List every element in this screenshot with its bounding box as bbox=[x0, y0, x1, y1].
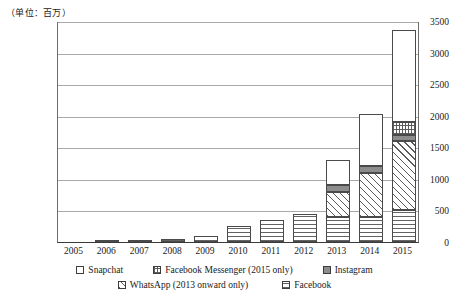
bar-segment-facebook[interactable] bbox=[260, 220, 284, 242]
x-tick-label: 2006 bbox=[97, 246, 116, 256]
y-tick-label: 1500 bbox=[397, 143, 449, 153]
bar-segment-instagram[interactable] bbox=[359, 166, 383, 172]
legend-label: Facebook Messenger (2015 only) bbox=[165, 265, 292, 275]
bar-2013[interactable] bbox=[326, 160, 350, 242]
legend: SnapchatFacebook Messenger (2015 only)In… bbox=[0, 262, 449, 292]
bar-segment-whatsapp[interactable] bbox=[359, 173, 383, 217]
bar-segment-facebook[interactable] bbox=[161, 239, 185, 242]
x-tick-label: 2013 bbox=[327, 246, 346, 256]
bar-segment-messenger[interactable] bbox=[392, 122, 416, 135]
bar-2008[interactable] bbox=[161, 239, 185, 242]
legend-item-facebook[interactable]: Facebook bbox=[282, 280, 331, 290]
legend-row-1: SnapchatFacebook Messenger (2015 only)In… bbox=[0, 262, 449, 277]
legend-label: Instagram bbox=[335, 265, 373, 275]
gridline bbox=[58, 54, 418, 55]
bar-2012[interactable] bbox=[293, 214, 317, 242]
x-tick-label: 2008 bbox=[163, 246, 182, 256]
gridline bbox=[58, 22, 418, 23]
bar-segment-instagram[interactable] bbox=[326, 185, 350, 191]
legend-label: Facebook bbox=[294, 280, 331, 290]
x-tick-label: 2009 bbox=[196, 246, 215, 256]
bar-2009[interactable] bbox=[194, 236, 218, 242]
legend-swatch-snapchat-icon bbox=[76, 266, 84, 274]
bar-segment-instagram[interactable] bbox=[392, 135, 416, 141]
x-tick-label: 2010 bbox=[229, 246, 248, 256]
bar-2014[interactable] bbox=[359, 114, 383, 242]
x-tick-label: 2015 bbox=[393, 246, 412, 256]
unit-label: （单位：百万） bbox=[6, 6, 71, 19]
gridline bbox=[58, 85, 418, 86]
bar-2010[interactable] bbox=[227, 226, 251, 242]
bar-segment-facebook[interactable] bbox=[293, 214, 317, 242]
y-tick-label: 2000 bbox=[397, 112, 449, 122]
legend-item-whatsapp[interactable]: WhatsApp (2013 onward only) bbox=[118, 280, 248, 290]
bar-2011[interactable] bbox=[260, 220, 284, 242]
legend-swatch-messenger-icon bbox=[153, 266, 161, 274]
bar-segment-facebook[interactable] bbox=[194, 236, 218, 242]
x-tick-label: 2014 bbox=[360, 246, 379, 256]
bar-segment-facebook[interactable] bbox=[326, 217, 350, 242]
legend-swatch-whatsapp-icon bbox=[118, 281, 126, 289]
bar-2007[interactable] bbox=[128, 241, 152, 242]
y-tick-label: 500 bbox=[397, 206, 449, 216]
bar-segment-facebook[interactable] bbox=[359, 217, 383, 242]
legend-item-instagram[interactable]: Instagram bbox=[323, 265, 373, 275]
y-tick-label: 3500 bbox=[397, 17, 449, 27]
legend-label: Snapchat bbox=[88, 265, 123, 275]
bar-segment-snapchat[interactable] bbox=[392, 30, 416, 122]
bar-segment-facebook[interactable] bbox=[227, 226, 251, 242]
bar-segment-snapchat[interactable] bbox=[359, 114, 383, 166]
x-tick-label: 2012 bbox=[294, 246, 313, 256]
bar-segment-facebook[interactable] bbox=[95, 240, 119, 242]
plot-area bbox=[57, 22, 419, 243]
legend-label: WhatsApp (2013 onward only) bbox=[130, 280, 248, 290]
y-tick-label: 3000 bbox=[397, 49, 449, 59]
bar-segment-snapchat[interactable] bbox=[326, 160, 350, 185]
bar-segment-whatsapp[interactable] bbox=[326, 192, 350, 217]
x-tick-label: 2011 bbox=[262, 246, 281, 256]
legend-item-snapchat[interactable]: Snapchat bbox=[76, 265, 123, 275]
legend-row-2: WhatsApp (2013 onward only)Facebook bbox=[0, 277, 449, 292]
chart-container: （单位：百万） 0500100015002000250030003500 200… bbox=[0, 0, 449, 305]
y-tick-label: 1000 bbox=[397, 175, 449, 185]
x-tick-label: 2007 bbox=[130, 246, 149, 256]
legend-swatch-facebook-icon bbox=[282, 281, 290, 289]
x-tick-label: 2005 bbox=[64, 246, 83, 256]
legend-swatch-instagram-icon bbox=[323, 266, 331, 274]
legend-item-messenger[interactable]: Facebook Messenger (2015 only) bbox=[153, 265, 292, 275]
bar-segment-facebook[interactable] bbox=[128, 240, 152, 242]
y-tick-label: 2500 bbox=[397, 80, 449, 90]
